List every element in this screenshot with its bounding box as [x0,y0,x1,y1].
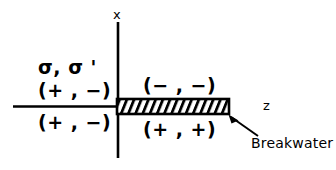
upper-left-region-label: (+ , −) [38,81,111,100]
x-axis-label: x [113,8,121,21]
lower-left-region-label: (+ , −) [38,113,111,132]
breakwater-shape [117,99,229,114]
breakwater-schematic-diagram: x z σ, σ ' (+ , −) (+ , −) (− , −) (+ , … [0,0,336,170]
sigma-symbol-label: σ, σ ' [38,58,97,77]
upper-right-region-label: (− , −) [143,76,216,95]
breakwater-label: Breakwater [251,136,333,150]
lower-right-region-label: (+ , +) [143,120,216,139]
z-axis-label: z [263,99,270,112]
